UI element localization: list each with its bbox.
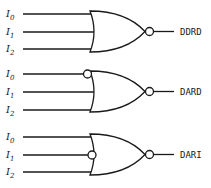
nor-gate-body <box>90 71 145 112</box>
nor-gate-body <box>90 11 145 52</box>
output-inversion-bubble <box>146 151 154 159</box>
input-label-i2: I2 <box>5 104 15 118</box>
input-label-i1: I1 <box>5 86 14 100</box>
gate-dari: I0 I1 I2 DARI <box>5 131 202 180</box>
input-label-i2: I2 <box>5 166 15 180</box>
input-label-i1: I1 <box>5 26 14 40</box>
output-label: DARD <box>180 87 202 97</box>
nor-gate-body <box>90 134 145 175</box>
logic-diagram: I0 I1 I2 DDRD I0 I1 I2 DARD I0 I1 I2 <box>0 0 211 188</box>
output-label: DARI <box>180 150 202 160</box>
input-label-i2: I2 <box>5 43 15 57</box>
input-label-i1: I1 <box>5 149 14 163</box>
gate-ddrd: I0 I1 I2 DDRD <box>5 8 202 57</box>
input-inversion-bubble-i1 <box>88 151 96 159</box>
input-label-i0: I0 <box>5 8 15 22</box>
output-label: DDRD <box>180 27 202 37</box>
gate-dard: I0 I1 I2 DARD <box>5 68 202 118</box>
input-inversion-bubble-i0 <box>84 70 92 78</box>
output-inversion-bubble <box>146 88 154 96</box>
input-label-i0: I0 <box>5 68 15 82</box>
output-inversion-bubble <box>146 28 154 36</box>
input-label-i0: I0 <box>5 131 15 145</box>
